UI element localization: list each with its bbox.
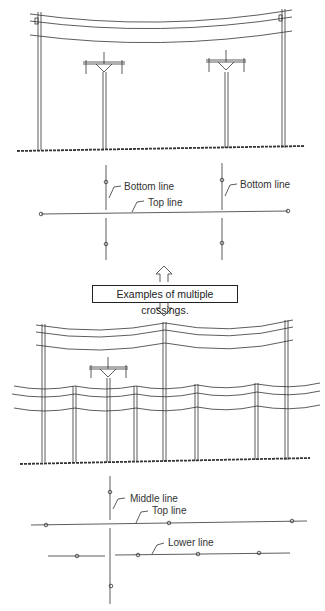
label-top-line-2: Top line xyxy=(152,505,187,516)
elevation-1 xyxy=(17,9,305,151)
pole-crossarm-left xyxy=(83,52,125,150)
callout-multiple-crossings: Examples of multiple crossings. xyxy=(92,285,238,303)
label-lower-line: Lower line xyxy=(168,537,214,548)
label-bottom-line-left: Bottom line xyxy=(124,181,174,192)
label-bottom-line-right: Bottom line xyxy=(240,179,290,190)
label-top-line-1: Top line xyxy=(148,197,183,208)
plan-1 xyxy=(39,163,290,260)
elevation-2 xyxy=(12,320,320,464)
label-middle-line: Middle line xyxy=(130,493,178,504)
pole-crossarm-right xyxy=(206,50,246,148)
